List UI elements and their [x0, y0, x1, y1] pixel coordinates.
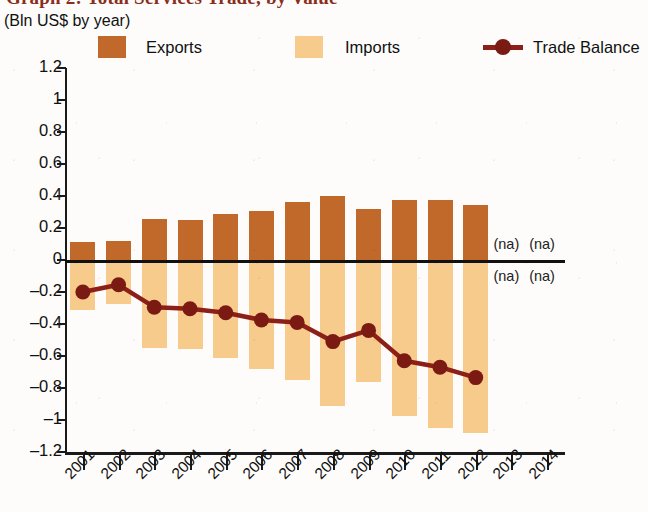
trade-balance-point — [290, 315, 305, 330]
y-tick-label: 1.2 — [2, 57, 62, 76]
y-tick-label: –0.8 — [2, 377, 62, 396]
trade-balance-line-layer — [65, 68, 565, 452]
trade-balance-point — [75, 285, 90, 300]
legend-item-exports[interactable]: Exports — [98, 34, 202, 60]
y-tick-label: 0.8 — [2, 121, 62, 140]
legend-item-trade-balance[interactable]: Trade Balance — [483, 34, 640, 60]
trade-balance-line — [83, 285, 476, 378]
square-swatch-icon — [98, 36, 126, 58]
chart-legend: Exports Imports Trade Balance — [98, 34, 643, 60]
trade-balance-point — [468, 370, 483, 385]
y-tick-label: 0 — [2, 249, 62, 268]
line-marker-icon — [483, 36, 523, 58]
plot-area: 1.210.80.60.40.20–0.2–0.4–0.6–0.8–1–1.2 … — [65, 68, 565, 452]
y-tick-label: 0.6 — [2, 153, 62, 172]
x-axis — [65, 452, 565, 455]
y-tick-label: –0.4 — [2, 313, 62, 332]
legend-item-imports[interactable]: Imports — [295, 34, 400, 60]
y-tick-label: –1 — [2, 409, 62, 428]
legend-label-imports: Imports — [345, 38, 400, 57]
trade-balance-point — [147, 300, 162, 315]
trade-balance-point — [218, 305, 233, 320]
y-tick-label: –1.2 — [2, 441, 62, 460]
trade-balance-point — [433, 360, 448, 375]
y-tick-label: 0.2 — [2, 217, 62, 236]
legend-label-trade-balance: Trade Balance — [533, 38, 640, 57]
trade-balance-point — [111, 277, 126, 292]
chart-title: Graph 2: Total Services Trade, by Value — [6, 0, 338, 9]
y-tick-label: 1 — [2, 89, 62, 108]
y-tick-label: –0.2 — [2, 281, 62, 300]
trade-balance-point — [397, 353, 412, 368]
trade-balance-point — [361, 323, 376, 338]
y-tick-label: –0.6 — [2, 345, 62, 364]
y-tick-label: 0.4 — [2, 185, 62, 204]
chart-container: Graph 2: Total Services Trade, by Value … — [0, 0, 648, 512]
trade-balance-point — [183, 301, 198, 316]
trade-balance-point — [325, 334, 340, 349]
chart-subtitle: (Bln US$ by year) — [4, 12, 130, 30]
square-swatch-icon — [295, 36, 323, 58]
trade-balance-point — [254, 313, 269, 328]
legend-label-exports: Exports — [146, 38, 202, 57]
